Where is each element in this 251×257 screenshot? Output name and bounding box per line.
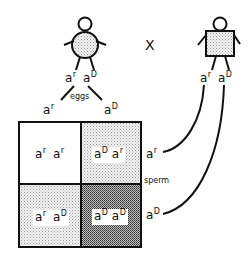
- allele-base: a: [65, 71, 72, 85]
- sperm-gamete-2: aD: [146, 209, 160, 223]
- allele-sup: r: [73, 70, 76, 79]
- male-figure-icon: [198, 18, 240, 71]
- allele-base: a: [35, 210, 42, 224]
- allele-sup: D: [61, 209, 67, 218]
- cross-symbol: X: [145, 38, 155, 52]
- cell-bottom-right-genotype: aD aD: [92, 209, 128, 225]
- allele-sup: D: [102, 208, 108, 217]
- egg-gamete-2: aD: [104, 104, 118, 118]
- sperm-label: sperm: [144, 177, 169, 185]
- female-genotype: ar aD: [65, 72, 97, 86]
- allele-sup: r: [51, 102, 54, 111]
- cell-top-right-genotype: aD ar: [92, 147, 125, 163]
- allele-sup: D: [120, 208, 126, 217]
- allele-base: a: [200, 71, 207, 85]
- allele-base: a: [112, 209, 119, 223]
- allele-base: a: [146, 147, 153, 161]
- allele-sup: r: [120, 146, 123, 155]
- egg-gamete-1: ar: [43, 104, 54, 118]
- allele-sup: r: [154, 146, 157, 155]
- male-genotype: ar aD: [200, 72, 232, 86]
- cell-bottom-left-genotype: ar aD: [33, 210, 69, 226]
- eggs-label: eggs: [70, 93, 89, 101]
- allele-base: a: [146, 208, 153, 222]
- allele-base: a: [112, 147, 119, 161]
- allele-sup: r: [61, 146, 64, 155]
- allele-base: a: [94, 209, 101, 223]
- allele-base: a: [53, 210, 60, 224]
- allele-sup: r: [43, 209, 46, 218]
- allele-sup: D: [154, 207, 160, 216]
- punnett-square: [19, 122, 141, 247]
- allele-sup: D: [112, 102, 118, 111]
- allele-base: a: [53, 147, 60, 161]
- allele-base: a: [94, 147, 101, 161]
- cell-top-left-genotype: ar ar: [35, 148, 64, 162]
- allele-sup: r: [208, 70, 211, 79]
- allele-sup: D: [102, 146, 108, 155]
- female-figure-icon: [64, 18, 106, 71]
- allele-sup: r: [43, 146, 46, 155]
- allele-sup: D: [91, 70, 97, 79]
- allele-base: a: [35, 147, 42, 161]
- allele-sup: D: [226, 70, 232, 79]
- allele-base: a: [43, 103, 50, 117]
- allele-base: a: [83, 71, 90, 85]
- sperm-gamete-1: ar: [146, 148, 157, 162]
- sperm-curves: [163, 85, 224, 214]
- allele-base: a: [104, 103, 111, 117]
- allele-base: a: [218, 71, 225, 85]
